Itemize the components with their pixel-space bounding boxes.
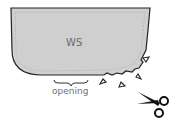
opening-label: opening	[52, 86, 88, 96]
piece-label: WS	[66, 37, 83, 48]
scissors-icon	[137, 92, 168, 117]
notch-icon	[143, 57, 149, 62]
notch-icon	[119, 82, 125, 87]
notch-icon	[100, 79, 106, 84]
notch-icon	[136, 74, 141, 79]
sewing-diagram	[0, 0, 182, 124]
